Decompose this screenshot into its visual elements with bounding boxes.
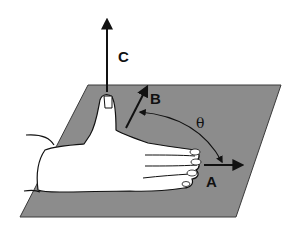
vector-a-label: A [206,173,217,190]
angle-theta-label: θ [196,115,204,131]
right-hand-rule-diagram: C B θ A [0,0,296,233]
vector-c-label: C [118,48,129,65]
vector-b-label: B [150,90,161,107]
